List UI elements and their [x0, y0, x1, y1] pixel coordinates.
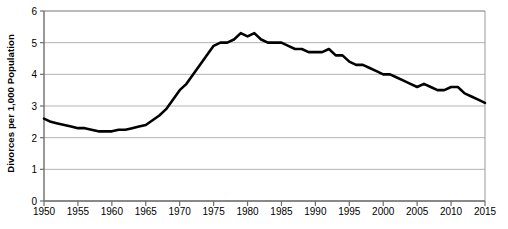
grid-lines	[44, 11, 485, 201]
divorce-rate-series-line	[44, 33, 485, 131]
x-axis-tick-marks	[44, 201, 485, 206]
plot-area	[0, 0, 508, 229]
divorce-rate-line-chart: Divorces per 1,000 Population 0123456 19…	[0, 0, 508, 229]
